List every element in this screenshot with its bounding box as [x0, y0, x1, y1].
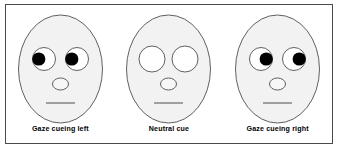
- head-outline-neutral: [127, 15, 211, 123]
- left-pupil-gaze-left: [32, 52, 45, 65]
- right-pupil-gaze-left: [65, 52, 78, 65]
- figure-root: Gaze cueing leftNeutral cueGaze cueing r…: [0, 0, 344, 158]
- right-pupil-gaze-right: [293, 52, 306, 65]
- face-drawing-neutral: [119, 9, 218, 125]
- nose-gaze-right: [270, 78, 286, 90]
- face-cell-gaze-right: Gaze cueing right: [226, 5, 330, 143]
- face-cell-neutral: Neutral cue: [117, 5, 221, 143]
- face-label-gaze-left: Gaze cueing left: [32, 126, 89, 133]
- face-label-gaze-right: Gaze cueing right: [247, 126, 309, 133]
- head-outline-gaze-left: [18, 15, 102, 123]
- figure-frame: Gaze cueing leftNeutral cueGaze cueing r…: [5, 4, 333, 144]
- face-drawing-gaze-right: [228, 9, 327, 125]
- face-cell-gaze-left: Gaze cueing left: [8, 5, 112, 143]
- left-pupil-gaze-right: [260, 52, 273, 65]
- face-label-neutral: Neutral cue: [149, 126, 189, 133]
- nose-gaze-left: [52, 78, 68, 90]
- face-row: Gaze cueing leftNeutral cueGaze cueing r…: [6, 5, 332, 143]
- right-eye-neutral: [172, 46, 198, 72]
- left-eye-neutral: [139, 46, 165, 72]
- nose-neutral: [161, 78, 177, 90]
- head-outline-gaze-right: [236, 15, 320, 123]
- face-drawing-gaze-left: [11, 9, 110, 125]
